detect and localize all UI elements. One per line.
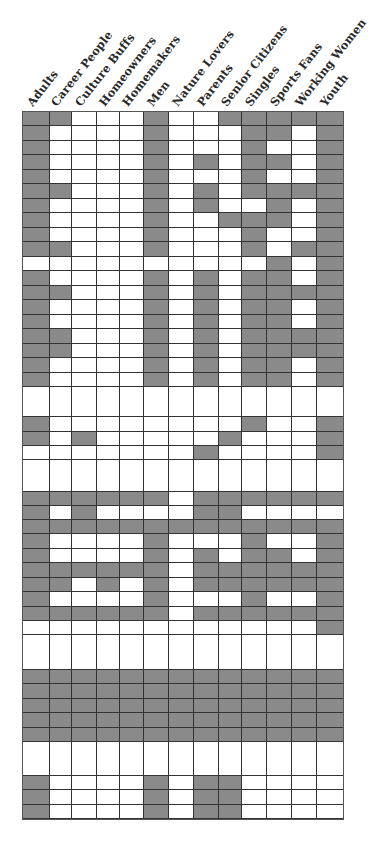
grid-cell-empty (194, 460, 219, 492)
grid-cell-shaded (23, 112, 50, 126)
grid-cell-shaded (292, 670, 317, 684)
grid-row (23, 728, 343, 742)
grid-row (23, 492, 343, 506)
grid-cell-shaded (23, 432, 50, 446)
grid-cell-empty (292, 141, 317, 155)
grid-cell-shaded (144, 520, 169, 534)
grid-cell-empty (120, 271, 144, 286)
grid-cell-empty (267, 742, 292, 776)
grid-cell-empty (120, 358, 144, 373)
grid-cell-shaded (97, 713, 120, 728)
grid-cell-empty (72, 805, 97, 819)
grid-cell-empty (97, 635, 120, 670)
grid-row (23, 213, 343, 228)
grid-row (23, 126, 343, 141)
grid-cell-empty (267, 387, 292, 417)
grid-cell-empty (72, 534, 97, 549)
grid-cell-empty (97, 112, 120, 126)
grid-cell-shaded (292, 286, 317, 300)
grid-cell-shaded (23, 506, 50, 520)
grid-cell-empty (194, 621, 219, 635)
grid-cell-shaded (219, 728, 242, 742)
grid-cell-empty (292, 300, 317, 315)
grid-cell-shaded (144, 776, 169, 790)
grid-cell-shaded (194, 155, 219, 170)
grid-cell-shaded (317, 670, 343, 684)
grid-cell-empty (72, 170, 97, 184)
grid-cell-empty (169, 742, 194, 776)
grid-cell-shaded (194, 271, 219, 286)
grid-cell-shaded (242, 112, 267, 126)
grid-cell-shaded (169, 520, 194, 534)
grid-cell-shaded (267, 126, 292, 141)
grid-cell-empty (169, 534, 194, 549)
grid-cell-shaded (97, 684, 120, 699)
grid-cell-shaded (292, 329, 317, 344)
grid-cell-empty (219, 635, 242, 670)
grid-row (23, 170, 343, 184)
grid-cell-shaded (144, 563, 169, 578)
grid-cell-empty (292, 170, 317, 184)
grid-cell-empty (50, 592, 72, 607)
grid-cell-empty (292, 460, 317, 492)
grid-cell-shaded (97, 520, 120, 534)
grid-cell-shaded (219, 578, 242, 592)
grid-cell-shaded (219, 699, 242, 713)
grid-cell-empty (23, 621, 50, 635)
grid-row (23, 184, 343, 199)
grid-cell-empty (169, 155, 194, 170)
grid-cell-shaded (267, 492, 292, 506)
grid-cell-shaded (242, 271, 267, 286)
grid-cell-shaded (72, 713, 97, 728)
grid-cell-shaded (144, 213, 169, 228)
grid-cell-empty (169, 506, 194, 520)
grid-cell-empty (120, 776, 144, 790)
grid-cell-shaded (219, 213, 242, 228)
grid-cell-shaded (169, 670, 194, 684)
grid-cell-empty (50, 417, 72, 432)
grid-cell-empty (120, 329, 144, 344)
grid-cell-empty (72, 578, 97, 592)
grid-row (23, 329, 343, 344)
grid-cell-shaded (194, 578, 219, 592)
grid-cell-shaded (144, 492, 169, 506)
grid-cell-empty (267, 228, 292, 242)
grid-cell-shaded (317, 184, 343, 199)
grid-cell-shaded (267, 699, 292, 713)
grid-cell-empty (219, 141, 242, 155)
grid-row (23, 506, 343, 520)
grid-cell-empty (97, 460, 120, 492)
grid-row (23, 373, 343, 387)
grid-cell-shaded (267, 520, 292, 534)
grid-cell-shaded (23, 520, 50, 534)
grid-cell-shaded (267, 329, 292, 344)
grid-cell-empty (72, 460, 97, 492)
grid-cell-shaded (144, 684, 169, 699)
grid-cell-empty (219, 271, 242, 286)
grid-cell-shaded (242, 684, 267, 699)
grid-cell-shaded (317, 199, 343, 213)
grid-cell-empty (120, 170, 144, 184)
grid-cell-shaded (169, 684, 194, 699)
grid-cell-empty (72, 387, 97, 417)
grid-cell-empty (50, 635, 72, 670)
grid-cell-shaded (317, 373, 343, 387)
grid-cell-shaded (317, 534, 343, 549)
grid-cell-empty (72, 592, 97, 607)
grid-row (23, 155, 343, 170)
grid-cell-shaded (144, 199, 169, 213)
grid-cell-shaded (317, 492, 343, 506)
grid-cell-empty (23, 257, 50, 271)
grid-cell-shaded (50, 563, 72, 578)
grid-cell-empty (169, 242, 194, 257)
grid-cell-shaded (23, 170, 50, 184)
grid-cell-empty (120, 228, 144, 242)
grid-cell-empty (194, 592, 219, 607)
grid-cell-shaded (317, 446, 343, 460)
grid-cell-shaded (120, 684, 144, 699)
grid-cell-shaded (120, 492, 144, 506)
grid-cell-shaded (23, 699, 50, 713)
grid-cell-empty (292, 315, 317, 329)
grid-cell-empty (72, 155, 97, 170)
grid-cell-shaded (72, 492, 97, 506)
